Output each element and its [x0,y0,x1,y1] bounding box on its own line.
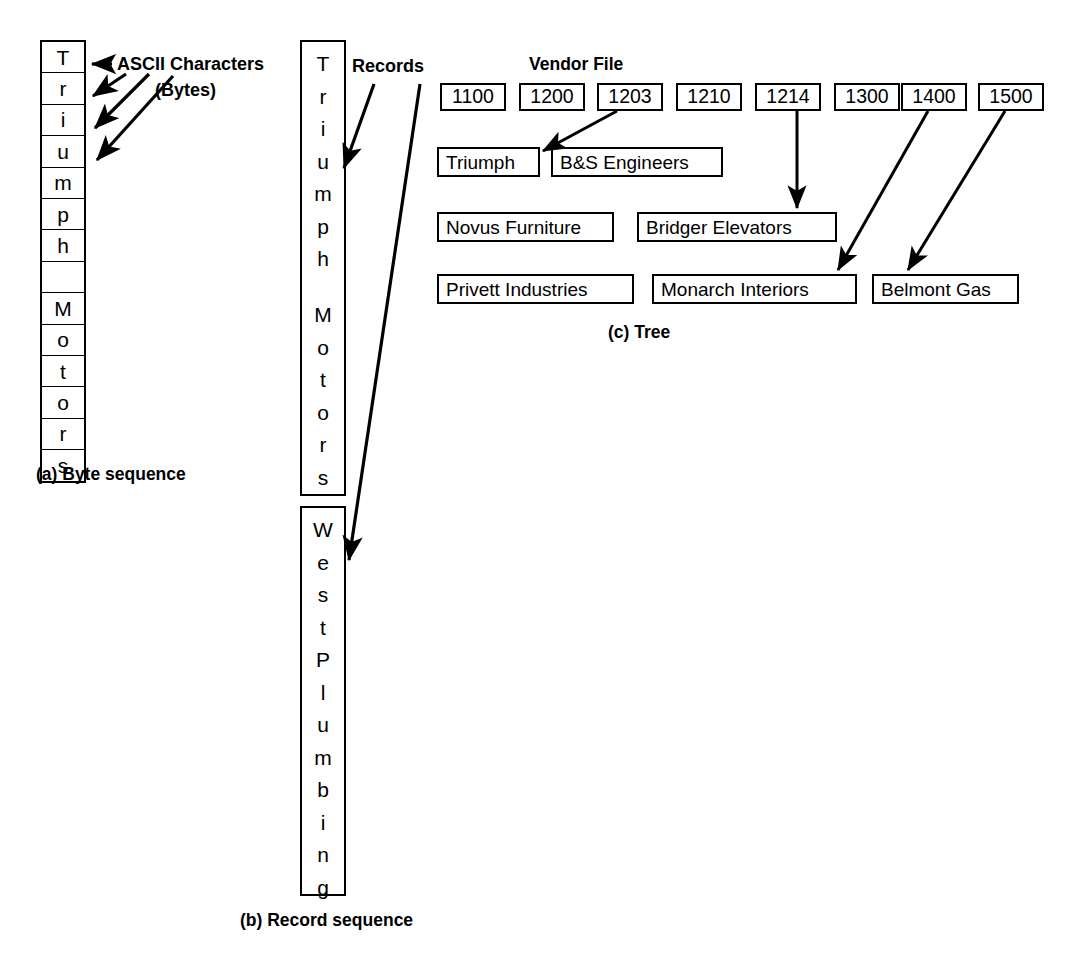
key-node-1300: 1300 [834,83,900,111]
byte-cell: m [42,168,84,199]
figure-canvas: T r i u m p h M o t o r s ASCII Characte… [0,0,1069,965]
ascii-characters-label: ASCII Characters [117,54,264,75]
caption-panel-c: (c) Tree [608,322,670,343]
ascii-bytes-label: (Bytes) [155,80,216,101]
byte-cell: o [42,387,84,418]
vendor-node-novus-furniture: Novus Furniture [437,212,614,242]
byte-cell: u [42,136,84,167]
key-node-1400: 1400 [901,83,967,111]
record-char: s [318,462,329,495]
byte-cell: M [42,293,84,324]
record-char: M [314,299,332,332]
caption-panel-b: (b) Record sequence [240,910,413,931]
record-char: u [317,709,329,742]
record-char: l [321,677,326,710]
tree-link-1203-triumph [543,111,617,151]
vendor-node-monarch-interiors: Monarch Interiors [652,274,857,304]
records-label: Records [352,56,424,77]
caption-panel-a: (a) Byte sequence [36,464,186,485]
tree-link-1500-belmont [908,111,1005,270]
key-node-1100: 1100 [440,83,506,111]
record-char: i [321,807,326,840]
vendor-file-title: Vendor File [529,54,623,75]
byte-cell: t [42,356,84,387]
record-char: W [313,514,333,547]
vendor-node-privett-industries: Privett Industries [437,274,634,304]
key-node-1200: 1200 [519,83,585,111]
record-char: s [318,579,329,612]
key-node-1500: 1500 [978,83,1044,111]
byte-cell-space [42,262,84,293]
ascii-pointer-arrows [92,64,173,160]
record-char: i [321,113,326,146]
byte-cell: h [42,230,84,261]
key-node-1210: 1210 [676,83,742,111]
byte-cell: r [42,419,84,450]
tree-link-1400-monarch [838,111,928,270]
record-char: r [320,81,327,114]
record-char: r [320,429,327,462]
vendor-node-triumph: Triumph [437,147,540,177]
vendor-node-bs-engineers: B&S Engineers [551,147,723,177]
record-char: b [317,774,329,807]
record-char: m [314,178,332,211]
tree-link-arrows [543,111,1005,270]
byte-cell: i [42,105,84,136]
record-char: t [320,364,326,397]
record-char: t [320,612,326,645]
key-node-1203: 1203 [597,83,663,111]
record-char: m [314,742,332,775]
byte-cell: o [42,325,84,356]
record-char: n [317,839,329,872]
key-node-1214: 1214 [755,83,821,111]
record-char: P [316,644,330,677]
byte-sequence-column: T r i u m p h M o t o r s [40,40,86,483]
records-pointer-arrows [344,84,420,560]
record-char: u [317,146,329,179]
vendor-node-bridger-elevators: Bridger Elevators [637,212,837,242]
record-char: o [317,397,329,430]
record-box: T r i u m p h M o t o r s [300,40,346,496]
record-box: W e s t P l u m b i n g [300,506,346,896]
vendor-node-belmont-gas: Belmont Gas [872,274,1019,304]
record-char: e [317,547,329,580]
record-char: p [317,211,329,244]
record-char: g [317,872,329,905]
byte-cell: r [42,73,84,104]
byte-cell: T [42,42,84,73]
byte-cell: p [42,199,84,230]
record-char: T [317,48,330,81]
record-char: o [317,332,329,365]
record-char: h [317,243,329,276]
